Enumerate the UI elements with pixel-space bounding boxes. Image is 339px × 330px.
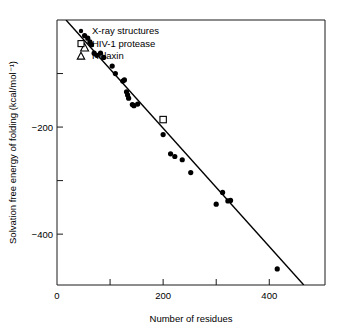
series-x-ray-structures [82,33,280,272]
x-axis-title: Number of residues [150,313,233,324]
legend-marker-0 [79,29,83,33]
scatter-plot-figure: 0200400−200−400Number of residuesSolvati… [0,0,339,330]
data-point [135,101,140,106]
data-point [220,190,225,195]
data-point [122,77,127,82]
data-point [161,132,166,137]
x-tick-label-0: 0 [54,290,59,301]
data-point [188,170,193,175]
x-tick-label-200: 200 [155,290,171,301]
data-point [172,154,177,159]
data-point [180,157,185,162]
y-axis-ticks: −200−400 [32,74,63,240]
data-point [214,202,219,207]
series-hiv-1-protease [160,116,166,122]
x-axis-ticks: 0200400 [54,279,277,301]
data-point [160,116,166,122]
y-tick-label-400: −400 [32,229,53,240]
legend-marker-1 [78,41,84,47]
y-axis-title: Solvation free energy of folding (kcal/m… [7,61,18,244]
plot-canvas: 0200400−200−400Number of residuesSolvati… [0,0,339,330]
data-point [110,63,115,68]
data-point [126,96,131,101]
y-tick-label-200: −200 [32,122,53,133]
legend-marker-2 [77,52,84,59]
data-point [113,71,118,76]
data-point [275,266,280,271]
legend-label-0: X-ray structures [92,25,159,36]
legend-label-2: Relaxin [92,50,124,61]
x-tick-label-400: 400 [261,290,277,301]
legend-label-1: HIV-1 protease [92,38,155,49]
data-point [228,198,233,203]
